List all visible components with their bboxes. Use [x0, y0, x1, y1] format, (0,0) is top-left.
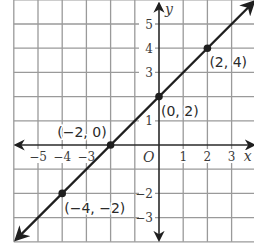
origin-label: O	[143, 149, 155, 165]
y-axis-label: y	[164, 1, 174, 17]
data-point	[155, 93, 163, 101]
y-tick-label: −2	[135, 187, 153, 201]
point-label: (2, 4)	[209, 54, 247, 70]
y-tick-label: 3	[145, 66, 153, 80]
x-tick-label: 1	[179, 150, 187, 164]
x-tick-label: −4	[53, 150, 71, 164]
point-label: (−4, −2)	[64, 200, 125, 216]
coordinate-plane: −5−4−31235431−2−3Oxy (−4, −2)(−2, 0)(0, …	[0, 0, 254, 250]
y-tick-label: 1	[145, 114, 153, 128]
x-tick-label: −5	[29, 150, 47, 164]
data-point	[58, 190, 66, 198]
data-point	[204, 44, 212, 52]
y-tick-label: −3	[135, 211, 153, 225]
x-tick-label: 2	[204, 150, 212, 164]
x-tick-label: 3	[228, 150, 236, 164]
point-label: (−2, 0)	[57, 124, 106, 140]
y-tick-label: 4	[145, 42, 153, 56]
x-axis-label: x	[244, 148, 252, 164]
y-tick-label: 5	[145, 18, 153, 32]
data-point	[107, 141, 115, 149]
point-label: (0, 2)	[161, 103, 199, 119]
